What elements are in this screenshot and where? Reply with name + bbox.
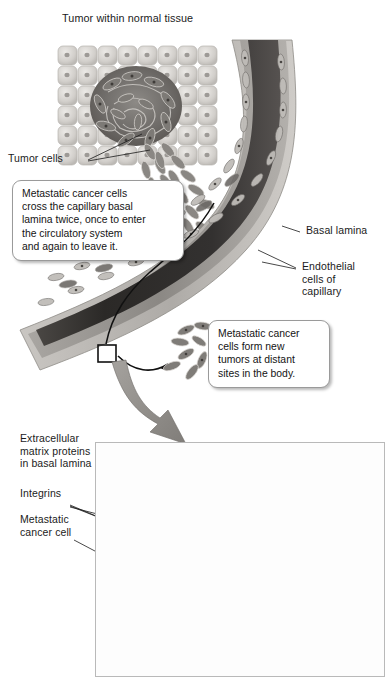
bracket-heading: Tumor within normal tissue xyxy=(62,12,193,24)
label-ecm-proteins: Extracellular matrix proteins in basal l… xyxy=(20,432,92,470)
label-tumor-cells: Tumor cells xyxy=(8,152,63,165)
label-basal-lamina: Basal lamina xyxy=(306,224,367,237)
zoom-region-marker xyxy=(98,345,116,362)
callout-capillary-crossing: Metastatic cancer cells cross the capill… xyxy=(12,180,184,261)
metastasis-figure: Tumor within normal tissue Tumor cells B… xyxy=(0,0,386,694)
detail-panel-frame xyxy=(95,442,385,677)
label-endothelial-cells: Endothelial cells of capillary xyxy=(302,260,355,298)
tumor-tissue-illustration xyxy=(58,46,217,196)
bracket xyxy=(57,29,236,43)
label-integrins: Integrins xyxy=(20,487,61,500)
label-metastatic-cancer-cell: Metastatic cancer cell xyxy=(20,513,71,538)
callout-distant-tumors: Metastatic cancer cells form new tumors … xyxy=(208,320,330,388)
detail-zoom-arrow xyxy=(112,360,186,444)
